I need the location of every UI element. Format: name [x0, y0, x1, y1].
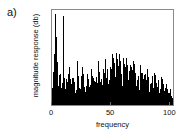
plot-area: [51, 9, 174, 106]
figure-panel: a) magnitude response (db) 050100 freque…: [0, 0, 186, 134]
x-tick-label: 0: [49, 108, 53, 117]
x-axis-label: frequency: [51, 120, 174, 129]
x-tick-label: 100: [163, 108, 176, 117]
x-tick-label: 50: [106, 108, 114, 117]
x-tick-mark: [169, 102, 170, 105]
spectrum-series: [52, 10, 173, 105]
x-tick-mark: [51, 102, 52, 105]
x-tick-mark: [110, 102, 111, 105]
panel-label: a): [7, 6, 17, 19]
y-axis-label: magnitude response (db): [31, 8, 40, 104]
